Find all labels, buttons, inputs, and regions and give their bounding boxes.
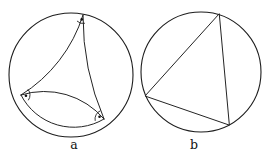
side-bottom-lower	[21, 95, 104, 127]
side-top-left	[21, 15, 83, 95]
side-bottom-upper	[21, 91, 104, 119]
geometry-figure: a b	[0, 0, 269, 157]
circle-a	[9, 13, 133, 137]
figure-canvas: a b	[0, 0, 269, 157]
angle-dot-top	[80, 18, 83, 21]
label-a: a	[70, 137, 78, 152]
angle-dot-left	[25, 94, 28, 97]
angle-dot-right	[98, 115, 101, 118]
panel-b: b	[141, 12, 261, 152]
circle-b	[141, 12, 261, 132]
angle-arc-left	[28, 89, 30, 100]
label-b: b	[190, 137, 198, 152]
panel-a: a	[9, 13, 133, 152]
